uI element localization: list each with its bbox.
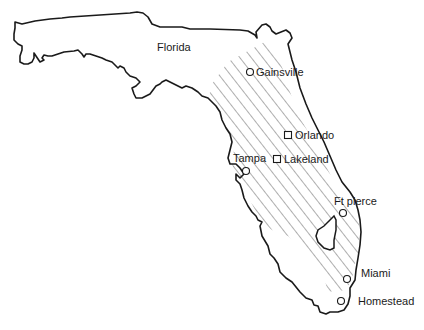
city-label: Tampa [233,152,267,164]
circle-marker-icon [344,276,351,283]
city-label: Miami [361,267,390,279]
city-label: Lakeland [284,153,329,165]
florida-map: Florida Gainsville Orlando Lakeland Tamp… [0,0,424,330]
region-label: Florida [157,41,192,53]
city-label: Gainsville [256,66,304,78]
map-canvas: Florida Gainsville Orlando Lakeland Tamp… [0,0,424,330]
square-marker-icon [274,156,281,163]
city-label: Homestead [358,295,414,307]
circle-marker-icon [243,168,250,175]
square-marker-icon [285,132,292,139]
city-gainsville: Gainsville [247,66,304,78]
circle-marker-icon [340,210,347,217]
city-label: Ft pierce [334,195,377,207]
city-label: Orlando [295,129,334,141]
circle-marker-icon [338,298,345,305]
circle-marker-icon [247,69,254,76]
